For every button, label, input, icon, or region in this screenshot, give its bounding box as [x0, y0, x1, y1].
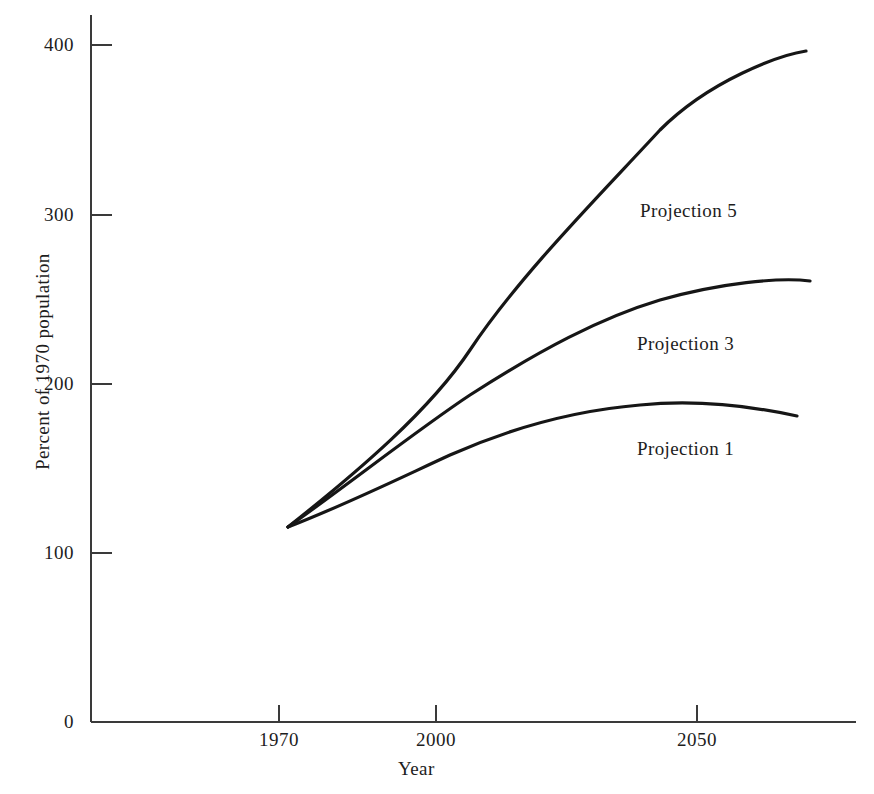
series-label-projection-1: Projection 1	[637, 438, 734, 460]
x-tick-label-1970: 1970	[239, 729, 319, 751]
x-axis-title: Year	[398, 758, 435, 780]
y-axis-ticks	[91, 45, 112, 553]
x-tick-label-2000: 2000	[396, 729, 476, 751]
y-axis-title: Percent of 1970 population	[32, 253, 54, 470]
chart-page: 400 300 200 100 0 1970 2000 2050 Percent…	[0, 0, 874, 794]
series-label-projection-5: Projection 5	[640, 200, 737, 222]
y-tick-label-400: 400	[4, 34, 74, 56]
population-projection-chart	[0, 0, 874, 794]
y-tick-label-300: 300	[4, 204, 74, 226]
series-label-projection-3: Projection 3	[637, 333, 734, 355]
x-axis-ticks	[279, 705, 697, 722]
x-tick-label-2050: 2050	[657, 729, 737, 751]
series-line-projection-3	[288, 280, 810, 527]
y-tick-label-100: 100	[4, 542, 74, 564]
y-tick-label-0: 0	[4, 711, 74, 733]
